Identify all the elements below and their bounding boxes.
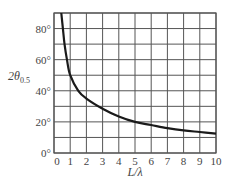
data-curve — [61, 13, 216, 134]
x-tick-label: 0 — [54, 155, 60, 167]
y-axis-label-main: 2θ — [8, 69, 20, 83]
y-tick-label: 0° — [41, 147, 51, 159]
y-axis-ticks: 0°20°40°60°80° — [36, 23, 51, 159]
y-tick-label: 40° — [36, 85, 51, 97]
x-tick-label: 10 — [211, 155, 223, 167]
y-tick-label: 60° — [36, 54, 51, 66]
y-tick-label: 20° — [36, 116, 51, 128]
y-axis-label-sub: 0.5 — [20, 76, 30, 85]
x-tick-label: 1 — [67, 155, 73, 167]
x-tick-label: 8 — [181, 155, 187, 167]
y-tick-label: 80° — [36, 23, 51, 35]
x-tick-label: 4 — [116, 155, 122, 167]
x-axis-label: L/λ — [126, 165, 142, 179]
x-tick-label: 2 — [84, 155, 90, 167]
x-tick-label: 6 — [148, 155, 154, 167]
y-axis-label: 2θ0.5 — [8, 69, 30, 85]
x-tick-label: 9 — [197, 155, 203, 167]
chart: 0°20°40°60°80° 012345678910 2θ0.5 L/λ — [0, 0, 235, 191]
x-tick-label: 3 — [100, 155, 106, 167]
x-tick-label: 7 — [165, 155, 171, 167]
